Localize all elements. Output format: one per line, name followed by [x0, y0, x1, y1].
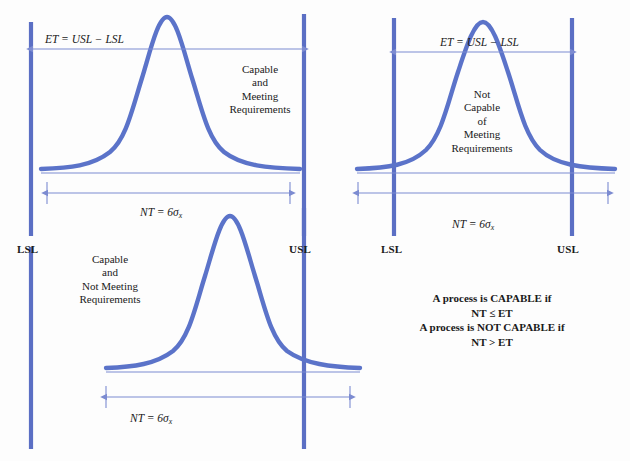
lsl-label-top-right: LSL [381, 243, 402, 255]
nt-equation-bottom-left: NT = 6σx [130, 412, 172, 427]
note-bottom-left-line-4: Requirements [55, 293, 165, 306]
note-bottom-left-line-1: Capable [55, 253, 165, 266]
note-top-left-line-2: and [219, 76, 301, 89]
capability-rule-line-2: NT ≤ ET [397, 306, 587, 321]
note-top-right-line-1: Not [441, 88, 523, 101]
usl-label-top-right: USL [557, 243, 579, 255]
nt-equation-bottom-left-main: NT = 6σ [130, 412, 169, 424]
lsl-label-top-left: LSL [17, 243, 38, 255]
capability-rule-box: A process is CAPABLE if NT ≤ ET A proces… [397, 291, 587, 349]
nt-equation-top-left-subscript: x [179, 211, 182, 220]
note-top-right: Not Capable of Meeting Requirements [441, 88, 523, 155]
capability-rule-line-3: A process is NOT CAPABLE if [397, 320, 587, 335]
note-top-left: Capable and Meeting Requirements [219, 63, 301, 117]
usl-label-top-left: USL [289, 243, 311, 255]
note-top-left-line-3: Meeting [219, 90, 301, 103]
note-top-right-line-4: Meeting [441, 128, 523, 141]
note-top-right-line-5: Requirements [441, 142, 523, 155]
nt-equation-bottom-left-subscript: x [169, 417, 172, 426]
note-bottom-left-line-2: and [55, 266, 165, 279]
nt-equation-top-right-subscript: x [491, 223, 494, 232]
capability-rule-line-1: A process is CAPABLE if [397, 291, 587, 306]
nt-equation-top-right-main: NT = 6σ [452, 218, 491, 230]
et-equation-top-right: ET = USL − LSL [440, 36, 519, 49]
figure-canvas: ET = USL − LSL NT = 6σx Capable and Meet… [0, 0, 630, 461]
note-bottom-left: Capable and Not Meeting Requirements [55, 253, 165, 307]
capability-rule-line-4: NT > ET [397, 335, 587, 350]
panel-top-left [31, 14, 304, 236]
note-top-right-line-3: of [441, 115, 523, 128]
note-top-left-line-1: Capable [219, 63, 301, 76]
nt-equation-top-left-main: NT = 6σ [140, 206, 179, 218]
note-top-right-line-2: Capable [441, 101, 523, 114]
et-equation-top-left: ET = USL − LSL [45, 33, 124, 46]
nt-equation-top-right: NT = 6σx [452, 218, 494, 233]
note-bottom-left-line-3: Not Meeting [55, 280, 165, 293]
nt-equation-top-left: NT = 6σx [140, 206, 182, 221]
figure-vector-layer [0, 0, 630, 461]
note-top-left-line-4: Requirements [219, 103, 301, 116]
